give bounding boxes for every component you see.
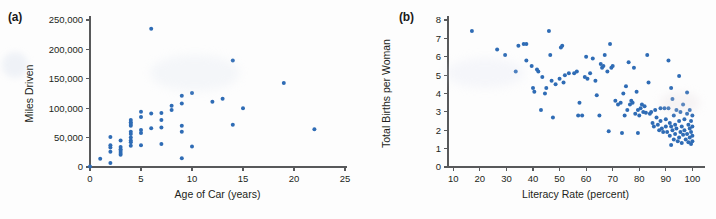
data-point xyxy=(567,71,571,75)
x-tick-label: 90 xyxy=(661,173,672,184)
data-point xyxy=(605,69,609,73)
data-point xyxy=(221,97,225,101)
data-point xyxy=(673,123,677,127)
data-point xyxy=(595,93,599,97)
data-point xyxy=(613,99,617,103)
data-point xyxy=(624,84,628,88)
data-point xyxy=(575,69,579,73)
data-point xyxy=(543,92,547,96)
data-point xyxy=(149,27,153,31)
data-point xyxy=(576,114,580,118)
y-tick-label: 6 xyxy=(436,51,441,62)
data-point xyxy=(666,58,670,62)
data-point xyxy=(656,123,660,127)
scatter-plot-a: 050,000100,000150,000200,000250,00005101… xyxy=(0,0,358,219)
x-tick-label: 100 xyxy=(684,173,700,184)
data-point xyxy=(672,137,676,141)
data-point xyxy=(470,29,474,33)
y-tick-label: 0 xyxy=(78,161,83,172)
data-point xyxy=(690,125,694,129)
data-point xyxy=(554,82,558,86)
data-point xyxy=(659,106,663,110)
data-point xyxy=(159,118,163,122)
data-point xyxy=(129,118,133,122)
data-point xyxy=(677,74,681,78)
data-point xyxy=(536,69,540,73)
data-point xyxy=(677,119,681,123)
x-tick-label: 5 xyxy=(138,173,143,184)
data-point xyxy=(669,143,673,147)
data-point xyxy=(655,115,659,119)
data-point xyxy=(690,114,694,118)
data-point xyxy=(619,101,623,105)
data-point xyxy=(129,144,133,148)
data-point xyxy=(593,79,597,83)
data-point xyxy=(544,86,548,90)
data-point xyxy=(139,143,143,147)
data-point xyxy=(673,132,677,136)
data-point xyxy=(643,104,647,108)
y-tick-label: 100,000 xyxy=(49,103,83,114)
x-tick-label: 40 xyxy=(528,173,539,184)
data-point xyxy=(495,47,499,51)
data-point xyxy=(514,69,518,73)
data-point xyxy=(686,123,690,127)
y-tick-label: 3 xyxy=(436,106,441,117)
data-point xyxy=(550,79,554,83)
x-tick-label: 60 xyxy=(581,173,592,184)
y-tick-label: 50,000 xyxy=(54,132,83,143)
data-point xyxy=(180,101,184,105)
data-point xyxy=(611,64,615,68)
data-point xyxy=(674,126,678,130)
x-tick-label: 80 xyxy=(634,173,645,184)
x-tick-label: 20 xyxy=(475,173,486,184)
data-point xyxy=(659,119,663,123)
y-tick-label: 7 xyxy=(436,33,441,44)
data-point xyxy=(108,143,112,147)
data-point xyxy=(681,133,685,137)
data-point xyxy=(539,108,543,112)
data-point xyxy=(119,139,123,143)
data-point xyxy=(108,150,112,154)
data-point xyxy=(644,111,648,115)
panel-b: (b) 012345678102030405060708090100Litera… xyxy=(358,0,716,219)
data-point xyxy=(682,128,686,132)
data-point xyxy=(660,126,664,130)
data-point xyxy=(88,164,92,168)
data-point xyxy=(607,129,611,133)
data-point xyxy=(665,130,669,134)
data-point xyxy=(149,111,153,115)
data-point xyxy=(190,91,194,95)
data-point xyxy=(524,42,528,46)
data-point xyxy=(669,125,673,129)
x-tick-label: 15 xyxy=(238,173,249,184)
data-point xyxy=(98,157,102,161)
data-point xyxy=(548,53,552,57)
data-point xyxy=(636,131,640,135)
data-point xyxy=(108,135,112,139)
data-point xyxy=(180,156,184,160)
data-point xyxy=(674,108,678,112)
figure-container: (a) 050,000100,000150,000200,000250,0000… xyxy=(0,0,716,219)
data-point xyxy=(661,130,665,134)
data-point xyxy=(621,92,625,96)
data-point xyxy=(637,114,641,118)
data-point xyxy=(558,77,562,81)
data-point xyxy=(681,103,685,107)
data-point xyxy=(563,73,567,77)
x-tick-label: 10 xyxy=(187,173,198,184)
data-point xyxy=(210,100,214,104)
data-point xyxy=(676,139,680,143)
data-point xyxy=(190,144,194,148)
data-point xyxy=(560,44,564,48)
y-tick-label: 5 xyxy=(436,70,441,81)
data-point xyxy=(591,57,595,61)
x-axis-title: Literacy Rate (percent) xyxy=(522,188,629,200)
data-point xyxy=(603,53,607,57)
data-point xyxy=(597,114,601,118)
data-point xyxy=(633,112,637,116)
data-point xyxy=(601,64,605,68)
x-tick-label: 10 xyxy=(448,173,459,184)
data-point xyxy=(669,86,673,90)
y-axis-title: Miles Driven xyxy=(23,64,35,122)
